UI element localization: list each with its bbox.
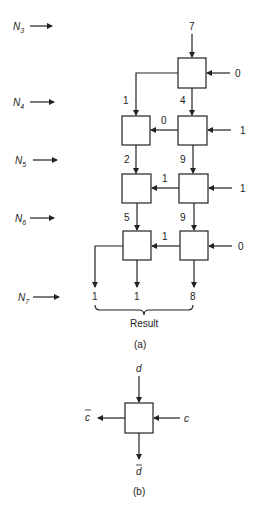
result-digit-1: 1 [92, 291, 98, 302]
row-label-n3: N3 [13, 21, 24, 34]
cell-box-r5-right [179, 174, 208, 203]
r6-left-value: 5 [124, 212, 130, 223]
r4-left-value: 1 [123, 95, 129, 106]
r5-carry-value: 1 [162, 173, 168, 184]
r4-carry-value: 0 [161, 115, 167, 126]
legend-bottom-d-bar: d [136, 466, 142, 477]
right-input-3: 1 [240, 183, 246, 194]
cell-box-r4-right [178, 116, 207, 145]
cell-box-legend [125, 403, 153, 433]
cell-box-r6-right [180, 231, 208, 260]
row-label-n4: N4 [13, 97, 24, 110]
legend-top-d: d [136, 363, 142, 374]
right-input-4: 0 [238, 241, 244, 252]
r6-right-value: 9 [180, 212, 186, 223]
diagram-canvas: N3 N4 N5 N6 N7 7 0 1 1 0 1 4 0 2 9 1 5 9… [0, 0, 258, 514]
result-digit-3: 8 [190, 291, 196, 302]
caption-a: (a) [134, 339, 146, 350]
r6-carry-value: 1 [162, 231, 168, 242]
top-input-value: 7 [189, 21, 195, 32]
r5-right-value: 9 [180, 154, 186, 165]
r5-left-value: 2 [124, 154, 130, 165]
legend-left-c-bar: c [85, 412, 90, 423]
r4-right-value: 4 [180, 95, 186, 106]
row-label-n7: N7 [18, 292, 30, 305]
cell-box-r5-left [122, 174, 151, 203]
legend-right-c: c [184, 413, 189, 424]
result-digit-2: 1 [134, 291, 140, 302]
result-brace [95, 305, 193, 315]
right-input-2: 1 [240, 125, 246, 136]
cell-box-top [178, 58, 206, 88]
cell-box-r4-left [122, 116, 150, 145]
right-input-1: 0 [235, 68, 241, 79]
cell-box-r6-left [123, 231, 151, 260]
row-label-n6: N6 [15, 213, 26, 226]
result-label: Result [130, 318, 159, 329]
row-label-n5: N5 [15, 155, 26, 168]
caption-b: (b) [133, 486, 145, 497]
